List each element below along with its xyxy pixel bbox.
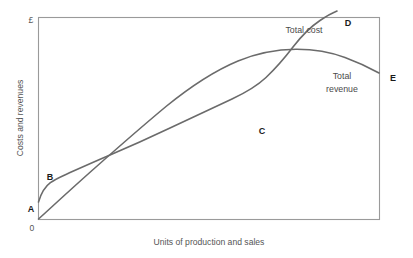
point-label-e: E (390, 73, 396, 83)
point-label-b: B (47, 172, 54, 182)
break-even-chart-svg: £ 0 Costs and revenues Units of producti… (0, 0, 413, 258)
x-axis-title: Units of production and sales (154, 237, 265, 247)
total-revenue-series-label-line1: Total (333, 71, 352, 81)
total-revenue-series-label-line2: revenue (326, 84, 358, 94)
point-label-c: C (259, 126, 266, 136)
total-revenue-curve (39, 49, 380, 219)
point-label-d: D (345, 18, 352, 28)
y-axis-currency-symbol: £ (29, 15, 34, 25)
point-label-a: A (28, 204, 35, 214)
chart-figure: £ 0 Costs and revenues Units of producti… (0, 0, 413, 258)
total-cost-series-label: Total cost (285, 25, 323, 35)
plot-frame (39, 18, 380, 220)
total-cost-curve (39, 11, 338, 202)
origin-tick-label: 0 (30, 223, 35, 233)
y-axis-title: Costs and revenues (15, 80, 25, 156)
